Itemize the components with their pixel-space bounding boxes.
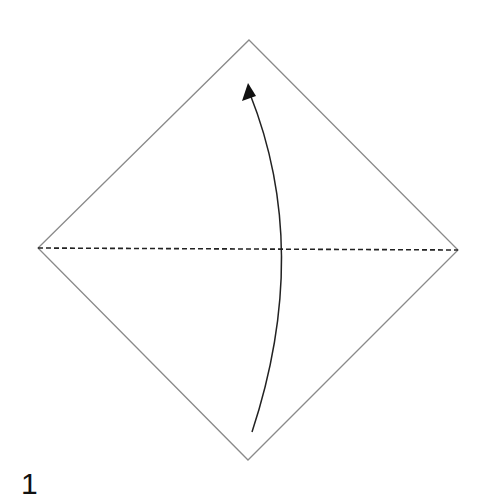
valley-fold-line [38, 248, 458, 250]
paper-square-outline [38, 40, 458, 460]
arrow-head-icon [242, 83, 256, 101]
fold-arrow-curve [250, 94, 282, 432]
step-number: 1 [21, 469, 38, 499]
origami-diagram [0, 0, 496, 504]
